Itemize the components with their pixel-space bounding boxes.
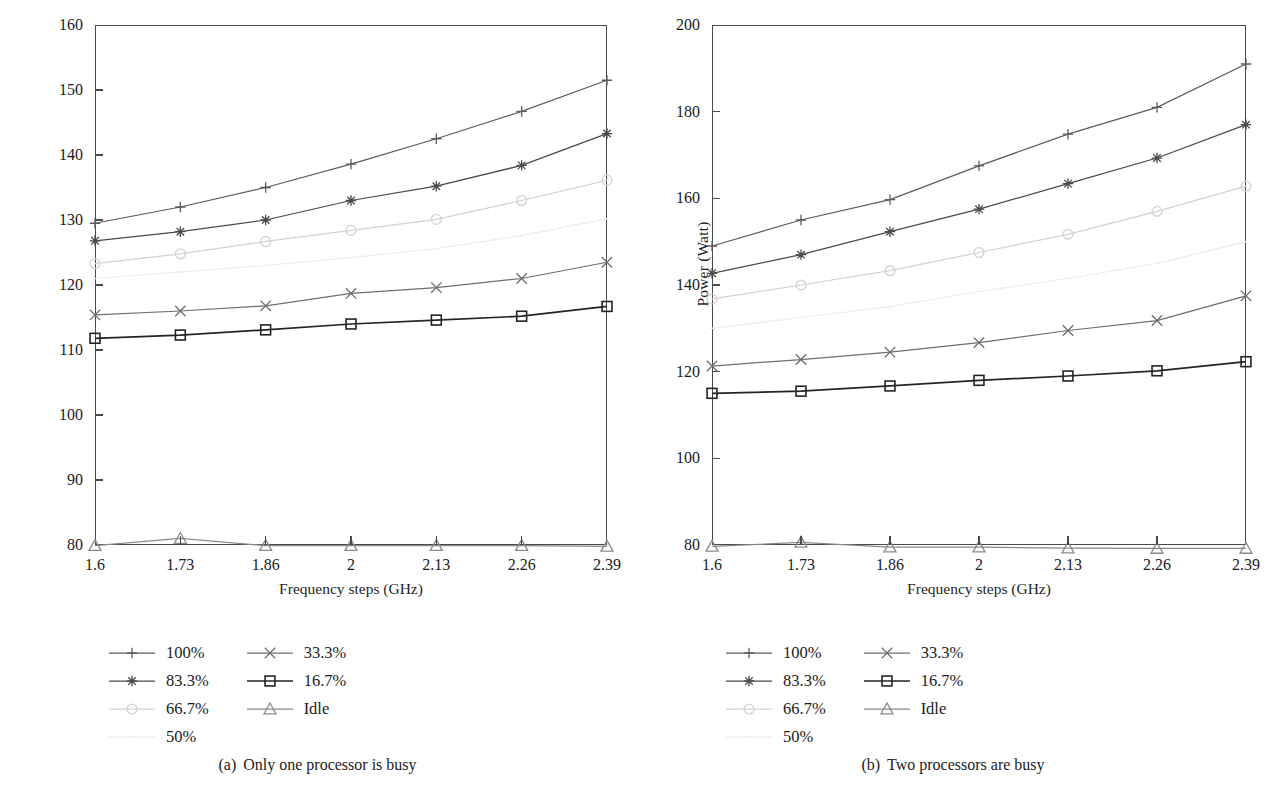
plus-marker bbox=[1152, 102, 1162, 112]
legend-item-50[interactable]: 50% bbox=[722, 724, 826, 750]
x-tick-label: 2.39 bbox=[1232, 556, 1260, 574]
y-tick-mark bbox=[95, 89, 103, 91]
legend-item-667[interactable]: 66.7% bbox=[105, 696, 209, 722]
cross-marker bbox=[860, 642, 914, 664]
x-tick-mark bbox=[180, 536, 182, 545]
triangle-marker bbox=[860, 698, 914, 720]
x-tick-label: 2 bbox=[347, 556, 355, 574]
series-667 bbox=[707, 181, 1251, 304]
legend-item-100[interactable]: 100% bbox=[105, 640, 209, 666]
y-tick-label: 80 bbox=[684, 536, 700, 554]
y-tick-label: 160 bbox=[676, 189, 700, 207]
x-tick-label: 1.73 bbox=[166, 556, 194, 574]
plus-marker bbox=[175, 202, 185, 212]
series-line bbox=[712, 362, 1246, 394]
legend-b: 100%83.3%66.7%50%33.3%16.7%Idle bbox=[722, 640, 963, 750]
asterisk-marker bbox=[1063, 178, 1073, 188]
legend-item-667[interactable]: 66.7% bbox=[722, 696, 826, 722]
asterisk-marker bbox=[431, 181, 441, 191]
plus-marker bbox=[1241, 59, 1251, 69]
dot-marker bbox=[722, 726, 776, 748]
asterisk-marker bbox=[1152, 153, 1162, 163]
x-tick-label: 1.86 bbox=[876, 556, 904, 574]
series-833 bbox=[707, 119, 1251, 278]
x-tick-label: 1.86 bbox=[252, 556, 280, 574]
legend-item-167[interactable]: 16.7% bbox=[860, 668, 964, 694]
plus-marker bbox=[796, 215, 806, 225]
legend-item-833[interactable]: 83.3% bbox=[105, 668, 209, 694]
y-tick-mark bbox=[95, 154, 103, 156]
legend-item-100[interactable]: 100% bbox=[722, 640, 826, 666]
y-tick-label: 130 bbox=[59, 211, 83, 229]
x-tick-mark bbox=[436, 536, 438, 545]
asterisk-marker bbox=[260, 215, 270, 225]
y-tick-mark bbox=[95, 414, 103, 416]
square-marker bbox=[243, 670, 297, 692]
y-tick-mark bbox=[712, 458, 720, 460]
legend-label: 16.7% bbox=[304, 671, 347, 691]
legend-label: 50% bbox=[783, 727, 813, 747]
x-axis-title-a: Frequency steps (GHz) bbox=[279, 580, 423, 598]
legend-item-333[interactable]: 33.3% bbox=[860, 640, 964, 666]
y-tick-mark bbox=[95, 219, 103, 221]
legend-label: 66.7% bbox=[783, 699, 826, 719]
caption-a: (a)Only one processor is busy bbox=[0, 756, 635, 774]
x-tick-label: 2.13 bbox=[422, 556, 450, 574]
series-50 bbox=[710, 242, 1248, 329]
plus-marker bbox=[346, 159, 356, 169]
series-line bbox=[95, 134, 607, 241]
x-tick-label: 1.6 bbox=[702, 556, 722, 574]
series-50 bbox=[93, 219, 609, 279]
legend-label: Idle bbox=[304, 699, 330, 719]
legend-label: 83.3% bbox=[783, 671, 826, 691]
y-tick-label: 140 bbox=[59, 146, 83, 164]
legend-item-333[interactable]: 33.3% bbox=[243, 640, 347, 666]
caption-b-tag: (b) bbox=[861, 756, 880, 773]
plus-marker bbox=[127, 648, 137, 658]
asterisk-marker bbox=[127, 676, 137, 686]
legend-item-833[interactable]: 83.3% bbox=[722, 668, 826, 694]
legend-label: 66.7% bbox=[166, 699, 209, 719]
y-tick-label: 140 bbox=[676, 276, 700, 294]
legend-item-50[interactable]: 50% bbox=[105, 724, 209, 750]
cross-marker bbox=[1241, 291, 1251, 301]
x-tick-label: 2 bbox=[975, 556, 983, 574]
series-line bbox=[712, 125, 1246, 274]
legend-a: 100%83.3%66.7%50%33.3%16.7%Idle bbox=[105, 640, 346, 750]
y-tick-label: 100 bbox=[676, 449, 700, 467]
asterisk-marker bbox=[885, 227, 895, 237]
x-axis-title-b: Frequency steps (GHz) bbox=[907, 580, 1051, 598]
x-tick-mark bbox=[1067, 536, 1069, 545]
y-tick-label: 160 bbox=[59, 16, 83, 34]
x-tick-label: 1.73 bbox=[787, 556, 815, 574]
legend-label: 100% bbox=[166, 643, 205, 663]
panel-b: Power (Watt) 801001201401601802001.61.73… bbox=[635, 0, 1271, 801]
plus-marker bbox=[431, 134, 441, 144]
panel-a: Power (Watt) 80901001101201301401501601.… bbox=[0, 0, 635, 801]
series-167 bbox=[90, 302, 612, 344]
series-line bbox=[712, 296, 1246, 366]
asterisk-marker bbox=[744, 676, 754, 686]
asterisk-marker bbox=[105, 670, 159, 692]
legend-item-idle[interactable]: Idle bbox=[860, 696, 964, 722]
legend-item-idle[interactable]: Idle bbox=[243, 696, 347, 722]
series-100 bbox=[707, 59, 1251, 251]
cross-marker bbox=[243, 642, 297, 664]
asterisk-marker bbox=[602, 128, 612, 138]
caption-b-text: Two processors are busy bbox=[887, 756, 1045, 773]
plus-marker bbox=[260, 182, 270, 192]
legend-item-167[interactable]: 16.7% bbox=[243, 668, 347, 694]
legend-label: 16.7% bbox=[921, 671, 964, 691]
legend-column-left: 100%83.3%66.7%50% bbox=[105, 640, 209, 750]
legend-column-right: 33.3%16.7%Idle bbox=[860, 640, 964, 750]
y-tick-label: 200 bbox=[676, 16, 700, 34]
asterisk-marker bbox=[175, 227, 185, 237]
plus-marker bbox=[744, 648, 754, 658]
asterisk-marker bbox=[90, 236, 100, 246]
y-tick-label: 120 bbox=[59, 276, 83, 294]
series-layer-b bbox=[712, 25, 1246, 545]
asterisk-marker bbox=[516, 160, 526, 170]
legend-column-right: 33.3%16.7%Idle bbox=[243, 640, 347, 750]
triangle-marker bbox=[243, 698, 297, 720]
asterisk-marker bbox=[1241, 119, 1251, 129]
